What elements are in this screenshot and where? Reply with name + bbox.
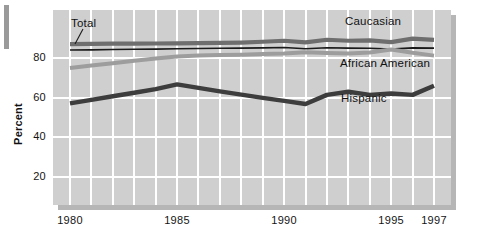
x-axis-tick-label: 1995 — [371, 214, 411, 226]
series-label-total: Total — [71, 17, 96, 29]
x-axis-tick-label: 1990 — [264, 214, 304, 226]
left-edge-partial-bar — [4, 5, 9, 49]
y-axis-tick-label: 60 — [20, 91, 46, 103]
series-label-african-american: African American — [340, 57, 430, 69]
series-line-caucasian — [70, 39, 434, 45]
chart-series-layer — [53, 10, 451, 205]
y-axis-tick-label: 40 — [20, 130, 46, 142]
x-axis-tick-label: 1980 — [50, 214, 90, 226]
series-label-hispanic: Hispanic — [341, 92, 387, 104]
x-axis-tick-label: 1997 — [414, 214, 454, 226]
x-axis-tick-label: 1985 — [157, 214, 197, 226]
series-label-caucasian: Caucasian — [345, 15, 401, 27]
chart-figure: Percent 20406080 19801985199019951997 To… — [0, 0, 487, 249]
y-axis-tick-label: 20 — [20, 170, 46, 182]
total-leader-line — [75, 29, 83, 44]
y-axis-tick-label: 80 — [20, 51, 46, 63]
